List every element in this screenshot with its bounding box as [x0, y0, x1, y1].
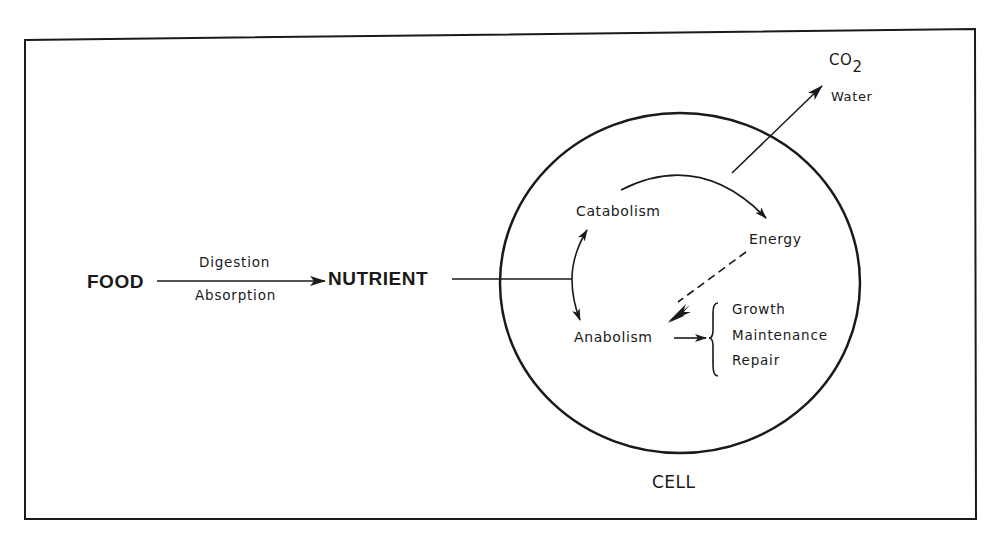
branch-to-catabolism-arrow [572, 230, 587, 279]
food-label: FOOD [87, 272, 144, 291]
outcome-repair: Repair [732, 354, 780, 368]
diagram-canvas [0, 0, 994, 533]
outcome-maintenance: Maintenance [732, 329, 828, 343]
energy-label: Energy [749, 232, 802, 246]
co2-main: CO [829, 51, 852, 69]
nutrient-label: NUTRIENT [328, 269, 428, 288]
energy-to-anabolism-arrow [678, 252, 746, 302]
co2-label: CO2 [829, 53, 863, 68]
outcome-growth: Growth [732, 303, 786, 317]
outcomes-brace [709, 303, 718, 376]
cell-membrane [500, 113, 860, 453]
digestion-label: Digestion [199, 256, 270, 270]
anabolism-label: Anabolism [574, 330, 653, 344]
co2-subscript: 2 [852, 58, 862, 76]
cell-label: CELL [652, 474, 696, 491]
water-label: Water [831, 90, 872, 103]
absorption-label: Absorption [195, 289, 276, 303]
catabolism-to-co2-arrow [732, 86, 822, 173]
branch-to-anabolism-arrow [572, 279, 580, 320]
energy-to-anabolism-arrowhead [668, 304, 691, 322]
catabolism-label: Catabolism [576, 204, 661, 218]
